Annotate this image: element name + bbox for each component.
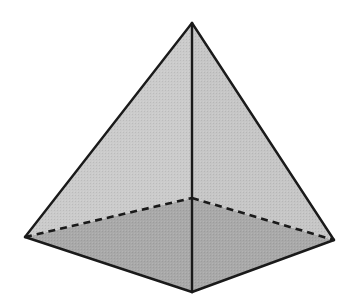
pyramid-figure bbox=[0, 0, 356, 305]
pyramid-diagram: Square pyramid bbox=[0, 0, 356, 305]
